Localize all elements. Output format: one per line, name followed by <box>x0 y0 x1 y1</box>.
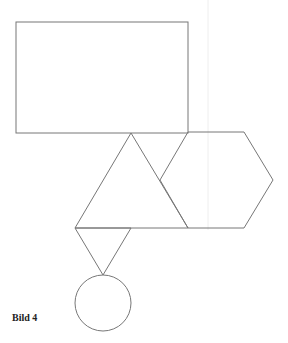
hexagon-face <box>160 132 273 228</box>
net-diagram: Bild 4 <box>0 0 288 343</box>
small-triangle-face <box>75 228 131 275</box>
circle-face <box>75 275 131 331</box>
rectangle-face <box>16 22 188 133</box>
net-drawing <box>0 0 288 343</box>
figure-caption: Bild 4 <box>12 312 37 323</box>
large-triangle-face <box>75 133 188 228</box>
